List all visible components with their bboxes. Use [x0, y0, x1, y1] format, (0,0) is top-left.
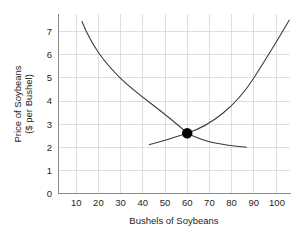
chart-container: 10 20 30 40 50 60 70 80 90 100 0 1 2 3 4… — [0, 0, 302, 237]
x-tick-label-30: 30 — [115, 197, 126, 208]
supply-demand-chart: 10 20 30 40 50 60 70 80 90 100 0 1 2 3 4… — [0, 0, 302, 237]
demand-curve — [82, 21, 247, 147]
demand-curve-group — [82, 21, 247, 147]
gridlines-vertical — [76, 14, 276, 194]
y-axis-title-line1: Price of Soybeans — [12, 65, 23, 142]
equilibrium-point-marker — [182, 128, 192, 138]
x-tick-label-80: 80 — [226, 197, 237, 208]
y-tick-label-0: 0 — [47, 188, 52, 199]
y-tick-label-3: 3 — [47, 119, 52, 130]
supply-curve — [149, 20, 290, 145]
x-axis-title-group: Bushels of Soybeans — [129, 215, 219, 226]
y-tick-label-1: 1 — [47, 165, 52, 176]
x-tick-label-90: 90 — [249, 197, 260, 208]
x-tick-label-10: 10 — [71, 197, 82, 208]
x-tick-label-20: 20 — [93, 197, 104, 208]
x-axis-title: Bushels of Soybeans — [129, 215, 219, 226]
x-tick-label-70: 70 — [204, 197, 215, 208]
equilibrium-marker-group — [182, 128, 192, 138]
x-tick-label-40: 40 — [138, 197, 149, 208]
x-tick-label-50: 50 — [160, 197, 171, 208]
x-axis-tick-labels: 10 20 30 40 50 60 70 80 90 100 — [71, 197, 285, 208]
supply-curve-group — [149, 20, 290, 145]
y-axis-tick-labels: 0 1 2 3 4 5 6 7 — [47, 26, 52, 199]
x-tick-label-60: 60 — [182, 197, 193, 208]
y-tick-label-5: 5 — [47, 72, 52, 83]
y-tick-label-7: 7 — [47, 26, 52, 37]
y-tick-label-4: 4 — [47, 95, 52, 106]
y-axis-title-line2: ($ per Bushel) — [23, 74, 34, 134]
y-tick-label-2: 2 — [47, 142, 52, 153]
axes — [58, 14, 291, 194]
x-tick-label-100: 100 — [269, 197, 285, 208]
gridlines-horizontal — [58, 32, 290, 171]
y-tick-label-6: 6 — [47, 49, 52, 60]
y-axis-title-group: Price of Soybeans ($ per Bushel) — [12, 65, 34, 142]
